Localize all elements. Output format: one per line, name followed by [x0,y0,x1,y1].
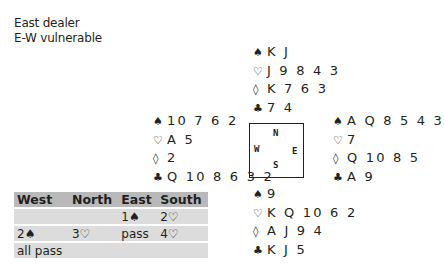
spade-icon: ♠ [253,44,267,62]
club-icon: ♣ [333,169,347,187]
compass-east: E [292,146,297,156]
bid-cell: 2♠ [14,226,69,241]
header-north: North [69,192,118,207]
heart-icon: ♡ [333,132,347,150]
bid-cell [157,243,208,258]
bid-cell [118,243,157,258]
south-hand: ♠9 ♡K Q 10 6 2 ◊A J 9 4 ♣K J 5 [253,185,357,259]
header-south: South [157,192,208,207]
deal-info: East dealer E-W vulnerable [14,16,102,46]
spade-icon: ♠ [253,186,267,204]
compass-south: S [273,160,278,170]
bid-cell [14,209,69,224]
bid-cell: all pass [14,243,69,258]
north-hearts: J 9 8 4 3 [267,63,340,78]
heart-icon: ♡ [253,205,267,223]
west-spades: 10 7 6 2 [167,113,238,128]
vulnerability-label: E-W vulnerable [14,31,102,46]
bid-cell [69,209,118,224]
north-hand: ♠K J ♡J 9 8 4 3 ◊K 7 6 3 ♣7 4 [253,43,340,117]
auction-row: 2♠ 3♡ pass 4♡ [14,226,208,241]
compass-west: W [254,144,259,154]
auction-row: all pass [14,243,208,258]
south-spades: 9 [267,186,277,201]
spade-icon: ♠ [153,113,167,131]
bid-cell: pass [118,226,157,241]
spade-icon: ♠ [333,113,347,131]
east-hand: ♠A Q 8 5 4 3 ♡7 ◊Q 10 8 5 ♣A 9 [333,112,444,186]
diamond-icon: ◊ [153,150,167,168]
west-diamonds: 2 [167,150,177,165]
bid-cell: 3♡ [69,226,118,241]
east-hearts: 7 [347,132,357,147]
bid-cell [69,243,118,258]
south-hearts: K Q 10 6 2 [267,205,357,220]
header-east: East [118,192,157,207]
club-icon: ♣ [153,169,167,187]
heart-icon: ♡ [253,63,267,81]
diamond-icon: ◊ [253,223,267,241]
club-icon: ♣ [253,242,267,260]
bid-cell: 1♠ [118,209,157,224]
compass-box: N W E S [249,123,304,178]
auction-row: 1♠ 2♡ [14,209,208,224]
north-diamonds: K 7 6 3 [267,81,328,96]
west-hearts: A 5 [167,132,195,147]
compass-north: N [273,128,278,138]
east-diamonds: Q 10 8 5 [347,150,420,165]
auction-table: West North East South 1♠ 2♡ 2♠ 3♡ pass 4… [14,190,208,260]
north-spades: K J [267,44,290,59]
bid-cell: 4♡ [157,226,208,241]
east-clubs: A 9 [347,169,375,184]
dealer-label: East dealer [14,16,102,31]
auction-header-row: West North East South [14,192,208,207]
heart-icon: ♡ [153,132,167,150]
south-diamonds: A J 9 4 [267,223,324,238]
diamond-icon: ◊ [333,150,347,168]
header-west: West [14,192,69,207]
east-spades: A Q 8 5 4 3 [347,113,444,128]
south-clubs: K J 5 [267,242,307,257]
diamond-icon: ◊ [253,81,267,99]
bid-cell: 2♡ [157,209,208,224]
